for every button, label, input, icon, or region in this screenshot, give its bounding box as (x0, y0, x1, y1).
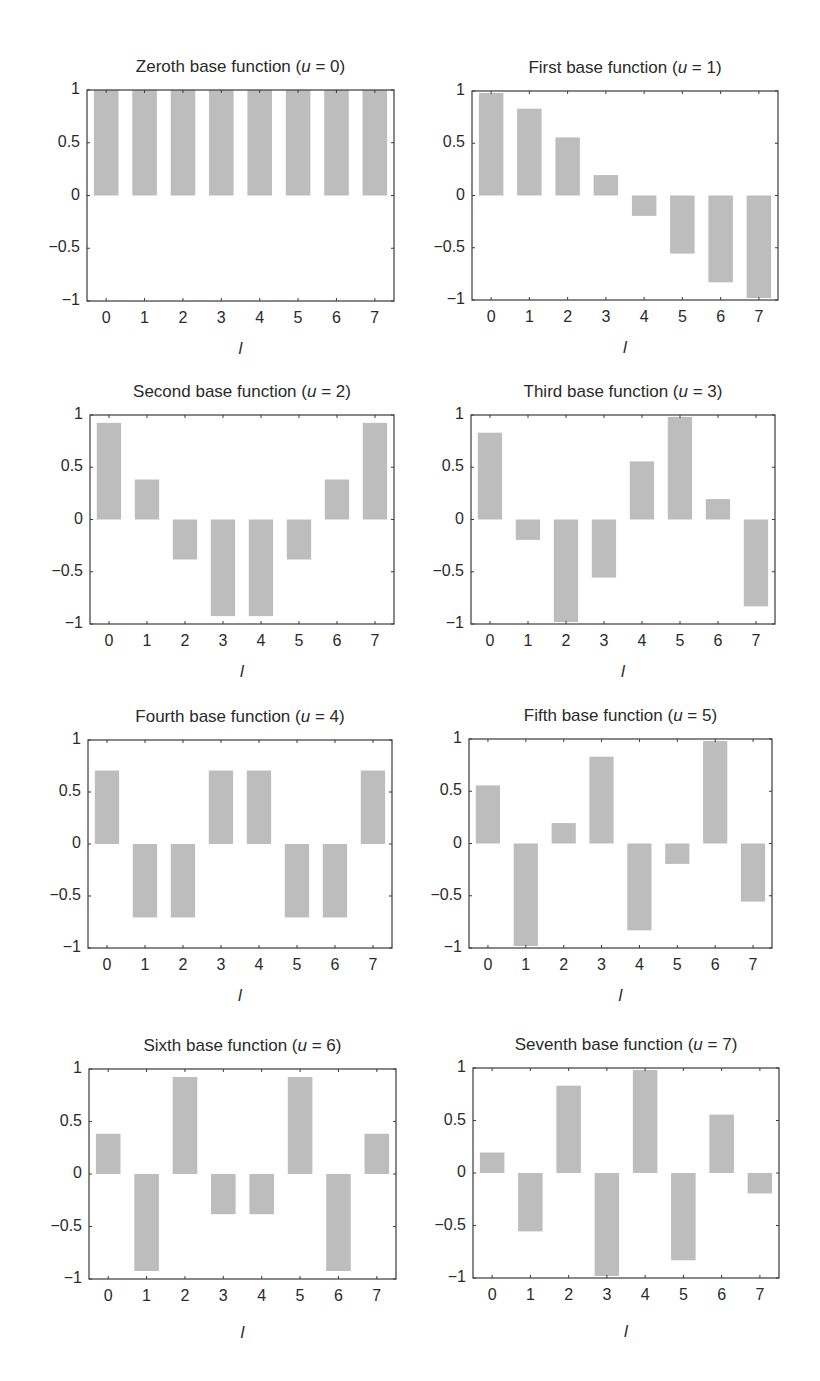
figure-grid: Zeroth base function (u = 0) 10.50−0.5−1… (0, 0, 820, 1381)
y-tick-label: −0.5 (416, 1216, 466, 1234)
plot-area (0, 0, 820, 1381)
x-tick-label: 4 (635, 1286, 655, 1304)
bar-l3 (595, 1173, 620, 1276)
y-tick-label: −1 (416, 1268, 466, 1286)
y-tick-label: 1 (416, 1058, 466, 1076)
bar-l1 (518, 1173, 543, 1231)
x-tick-label: 1 (520, 1286, 540, 1304)
bar-l6 (709, 1115, 734, 1173)
bar-l0 (480, 1153, 505, 1174)
bar-l2 (556, 1086, 581, 1173)
x-tick-label: 3 (597, 1286, 617, 1304)
x-tick-label: 2 (559, 1286, 579, 1304)
x-tick-label: 5 (673, 1286, 693, 1304)
x-tick-label: 0 (482, 1286, 502, 1304)
bar-l5 (671, 1173, 696, 1260)
bar-l4 (633, 1070, 658, 1173)
x-axis-label: l (616, 1322, 636, 1342)
x-tick-label: 6 (712, 1286, 732, 1304)
y-tick-label: 0.5 (416, 1111, 466, 1129)
y-tick-label: 0 (416, 1163, 466, 1181)
x-tick-label: 7 (750, 1286, 770, 1304)
bar-l7 (748, 1173, 773, 1194)
